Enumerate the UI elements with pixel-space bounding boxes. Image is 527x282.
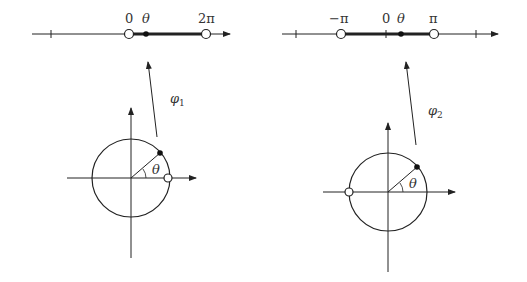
- label-theta: θ: [142, 11, 150, 26]
- open-endpoint-pi: [430, 30, 439, 39]
- open-endpoint-negpi: [337, 30, 346, 39]
- circle-point: [157, 150, 163, 156]
- theta-point: [398, 31, 404, 37]
- angle-arc: [400, 183, 403, 192]
- open-endpoint-0: [125, 30, 134, 39]
- label-zero: 0: [125, 11, 133, 26]
- phi2-label: φ2: [428, 103, 443, 120]
- angle-theta: θ: [152, 162, 160, 177]
- label-pi: π: [429, 11, 438, 26]
- theta-point: [143, 31, 149, 37]
- circle-point: [414, 164, 420, 170]
- label-zero: 0: [382, 11, 390, 26]
- left-unit-circle: θ: [67, 108, 196, 258]
- excluded-point: [345, 188, 353, 196]
- label-neg-pi: −π: [329, 11, 349, 26]
- right-number-line: −π 0 θ π: [282, 11, 498, 39]
- label-2pi: 2π: [198, 11, 215, 26]
- left-map-arrow: φ1: [148, 62, 185, 137]
- phi1-label: φ1: [170, 91, 185, 108]
- right-unit-circle: θ: [323, 123, 455, 272]
- left-number-line: 0 θ 2π: [32, 11, 230, 39]
- open-endpoint-2pi: [202, 30, 211, 39]
- angle-arc: [143, 169, 146, 178]
- right-map-arrow: φ2: [406, 62, 443, 145]
- label-theta: θ: [397, 11, 405, 26]
- angle-theta: θ: [409, 176, 417, 191]
- excluded-point: [164, 174, 172, 182]
- diagram-canvas: 0 θ 2π φ1 θ −π 0 θ π φ2: [0, 0, 527, 282]
